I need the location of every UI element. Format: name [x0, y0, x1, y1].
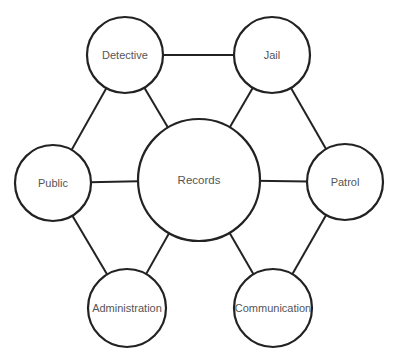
node-label: Public	[38, 177, 68, 189]
node-label: Communication	[235, 302, 311, 314]
node-label: Detective	[102, 49, 148, 61]
node-jail: Jail	[234, 17, 310, 93]
node-administration: Administration	[88, 269, 166, 347]
node-public: Public	[15, 145, 91, 221]
node-records: Records	[138, 119, 260, 241]
node-detective: Detective	[87, 17, 163, 93]
node-label: Administration	[92, 302, 162, 314]
node-label: Jail	[264, 49, 281, 61]
network-diagram: RecordsDetectiveJailPublicPatrolAdminist…	[0, 0, 395, 359]
node-label: Records	[178, 174, 221, 186]
node-label: Patrol	[331, 176, 360, 188]
node-communication: Communication	[234, 269, 312, 347]
node-patrol: Patrol	[307, 144, 383, 220]
nodes-layer: RecordsDetectiveJailPublicPatrolAdminist…	[15, 17, 383, 347]
